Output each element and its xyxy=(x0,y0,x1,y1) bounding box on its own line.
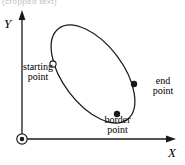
y-axis-label: Y xyxy=(4,17,11,30)
y-axis-arrowhead xyxy=(19,10,26,20)
origin-inner-dot xyxy=(20,137,25,142)
starting-point-label: starting point xyxy=(16,62,60,82)
x-axis xyxy=(22,136,176,143)
ellipse-diagram: (cropped text) starting point end xyxy=(0,0,185,165)
origin-marker-icon xyxy=(17,134,27,144)
x-axis-label: X xyxy=(168,146,176,159)
end-point-label-line2: point xyxy=(143,86,183,96)
end-point-marker xyxy=(131,81,137,87)
border-point-label: border point xyxy=(94,115,141,135)
border-point-label-line2: point xyxy=(94,125,141,135)
x-axis-arrowhead xyxy=(166,136,176,143)
end-point-label: end point xyxy=(143,76,183,96)
starting-point-label-line2: point xyxy=(16,72,60,82)
